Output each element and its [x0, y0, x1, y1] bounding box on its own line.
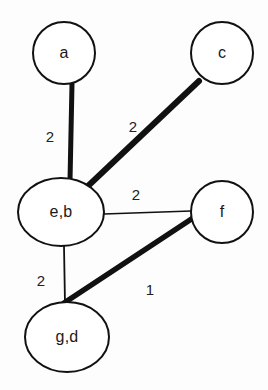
node-label-eb: e,b: [50, 204, 73, 220]
graph-edge-a-eb: [70, 84, 72, 181]
edge-weight-f-gd: 1: [146, 282, 154, 297]
node-label-f: f: [220, 204, 225, 220]
edge-weight-eb-gd: 2: [37, 273, 45, 288]
graph-edge-eb-c: [88, 81, 199, 186]
node-label-c: c: [218, 45, 226, 61]
graph-edge-eb-f: [104, 211, 191, 214]
graph-diagram: 22221ace,bfg,d: [0, 0, 268, 390]
node-label-gd: g,d: [56, 329, 79, 345]
edge-weight-a-eb: 2: [46, 129, 54, 144]
edge-weight-eb-c: 2: [129, 119, 137, 134]
graph-edge-eb-gd: [64, 246, 65, 304]
edge-weight-eb-f: 2: [132, 187, 140, 202]
node-label-a: a: [59, 45, 68, 61]
